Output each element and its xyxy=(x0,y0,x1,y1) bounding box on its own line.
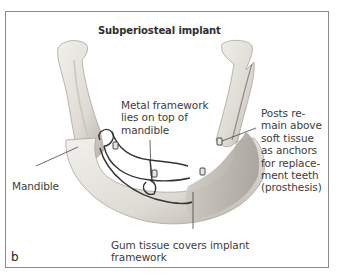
leader-framework xyxy=(150,140,151,176)
post-3 xyxy=(200,168,205,175)
label-mandible: Mandible xyxy=(12,180,59,192)
post-2 xyxy=(152,170,157,177)
post-1 xyxy=(113,142,118,149)
label-metal-framework: Metal framework lies on top of mandible xyxy=(121,99,208,136)
label-gum-tissue: Gum tissue covers implant framework xyxy=(111,239,249,264)
figure-title: Subperiosteal implant xyxy=(98,25,221,36)
label-posts: Posts re- main above soft tissue as anch… xyxy=(261,107,322,194)
panel-letter: b xyxy=(11,250,19,264)
implant-posts xyxy=(113,138,222,177)
post-4 xyxy=(217,138,222,145)
